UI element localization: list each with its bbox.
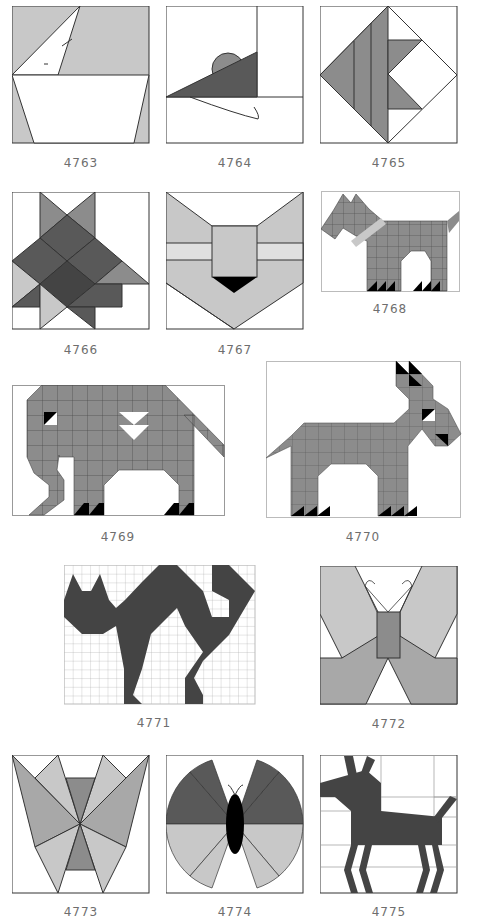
block-number: 4773	[41, 905, 121, 919]
block-number: 4774	[195, 905, 275, 919]
block-number: 4765	[349, 156, 429, 170]
quilt-block-4771	[64, 565, 256, 705]
quilt-block-4775	[320, 755, 458, 895]
block-number: 4766	[41, 343, 121, 357]
quilt-block-4764	[166, 6, 304, 144]
block-number: 4771	[114, 716, 194, 730]
block-number: 4770	[323, 530, 403, 544]
block-number: 4769	[78, 530, 158, 544]
block-number: 4764	[195, 156, 275, 170]
quilt-block-4766	[12, 192, 150, 330]
quilt-block-4765	[320, 6, 458, 144]
block-number: 4775	[349, 905, 429, 919]
block-number: 4768	[350, 302, 430, 316]
block-number: 4767	[195, 343, 275, 357]
quilt-block-4770	[266, 361, 462, 519]
quilt-block-4774	[166, 755, 304, 895]
quilt-block-4773	[12, 755, 150, 895]
quilt-block-4768	[321, 191, 461, 293]
quilt-block-4769	[12, 385, 226, 517]
block-number: 4772	[349, 717, 429, 731]
block-number: 4763	[41, 156, 121, 170]
quilt-block-4772	[320, 566, 458, 706]
quilt-block-4763	[12, 6, 150, 144]
quilt-block-4767	[166, 192, 304, 330]
